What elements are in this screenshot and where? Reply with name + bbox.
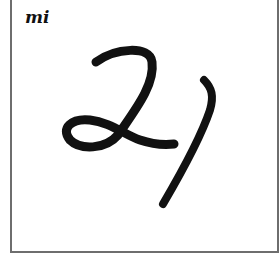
digit-2-stroke: [66, 50, 174, 147]
handwritten-21-glyph: [0, 0, 280, 268]
